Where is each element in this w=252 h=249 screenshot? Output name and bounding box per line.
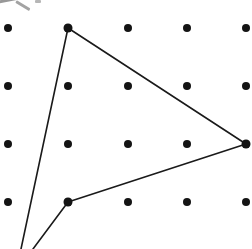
figure-background bbox=[0, 0, 252, 249]
grid-dot bbox=[183, 82, 191, 90]
grid-dot bbox=[4, 198, 12, 206]
grid-dot bbox=[183, 140, 191, 148]
triangle-vertex-dot bbox=[64, 24, 73, 33]
grid-dot bbox=[4, 82, 12, 90]
grid-dot bbox=[64, 140, 72, 148]
grid-dot bbox=[242, 24, 250, 32]
grid-dot bbox=[4, 24, 12, 32]
triangle-vertex-dot bbox=[242, 140, 251, 149]
grid-dot bbox=[64, 82, 72, 90]
grid-dot bbox=[242, 198, 250, 206]
grid-dot bbox=[183, 24, 191, 32]
geoboard-svg bbox=[0, 0, 252, 249]
grid-dot bbox=[124, 82, 132, 90]
grid-dot bbox=[242, 82, 250, 90]
triangle-vertex-dot bbox=[64, 198, 73, 207]
grid-dot bbox=[4, 140, 12, 148]
grid-dot bbox=[124, 140, 132, 148]
grid-dot bbox=[124, 198, 132, 206]
geoboard-figure bbox=[0, 0, 252, 249]
grid-dot bbox=[183, 198, 191, 206]
grid-dot bbox=[124, 24, 132, 32]
